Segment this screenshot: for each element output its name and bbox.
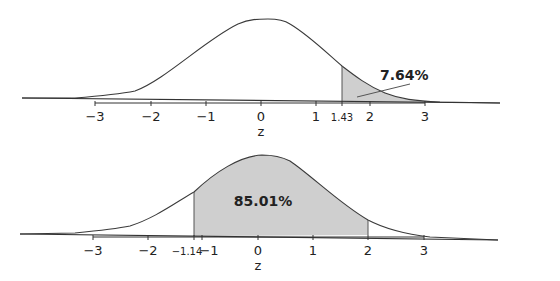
bottom-tick-label: 3 [420, 243, 428, 258]
bottom-tick-label: −2 [138, 243, 157, 258]
top-tick-label: −1 [196, 109, 215, 124]
top-tick-label: 2 [366, 109, 374, 124]
top-tick-label: 0 [257, 109, 265, 124]
bottom-tick-label: −1 [199, 243, 218, 258]
top-x-axis-label: z [258, 124, 265, 139]
top-tick-label-1-43: 1.43 [331, 112, 353, 123]
bottom-percent-annotation: 85.01% [234, 193, 292, 209]
bottom-tick-label: 1 [309, 243, 317, 258]
top-chart: −3 −2 −1 0 1 1.43 2 3 z 7.64% [22, 19, 500, 139]
bottom-tick-label: −3 [83, 243, 102, 258]
top-tick-label: 3 [421, 109, 429, 124]
top-tick-label: −2 [141, 109, 160, 124]
top-tick-label: 1 [312, 109, 320, 124]
bottom-x-axis-label: z [255, 258, 262, 273]
top-bell-curve [22, 19, 500, 103]
top-tick-label: −3 [85, 109, 104, 124]
top-tick-labels: −3 −2 −1 0 1 1.43 2 3 [85, 109, 429, 124]
bottom-tick-label: 2 [364, 243, 372, 258]
bottom-tick-labels: −3 −2 −1.14 −1 0 1 2 3 [83, 243, 428, 258]
top-percent-annotation: 7.64% [380, 67, 429, 83]
bottom-tick-label-neg-1-14: −1.14 [172, 246, 203, 257]
bottom-chart: −3 −2 −1.14 −1 0 1 2 3 z 85.01% [20, 155, 498, 273]
bottom-tick-label: 0 [254, 243, 262, 258]
figure: −3 −2 −1 0 1 1.43 2 3 z 7.64% [0, 0, 560, 281]
